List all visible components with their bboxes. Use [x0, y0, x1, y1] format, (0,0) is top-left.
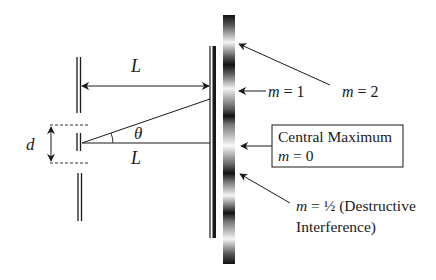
destructive-annotation: m = ½ (Destructive Interference) [240, 174, 416, 236]
double-slit-diagram: d L θ L m = 2 m = 1 Central Maximum m = … [0, 0, 436, 280]
central-maximum-title: Central Maximum [278, 128, 392, 145]
barrier-top [77, 57, 81, 113]
barrier-center [77, 133, 81, 151]
destructive-label-line1: m = ½ (Destructive [296, 197, 416, 215]
rays: θ L [82, 99, 210, 168]
m2-annotation: m = 2 [239, 44, 379, 100]
angle-arc [111, 133, 113, 143]
diagonal-ray [82, 99, 210, 143]
slit-barrier [77, 57, 82, 221]
central-maximum-order: m = 0 [278, 147, 314, 164]
L-top-label: L [130, 56, 141, 76]
central-maximum-annotation: Central Maximum m = 0 [241, 125, 403, 167]
barrier-bottom [78, 173, 82, 221]
distance-L-top: L [82, 56, 209, 86]
destructive-label-line2: Interference) [296, 218, 376, 236]
screen [210, 46, 216, 238]
d-label: d [26, 135, 35, 154]
m2-label: m = 2 [342, 83, 379, 100]
interference-fringe-pattern [223, 15, 235, 264]
theta-label: θ [134, 124, 142, 143]
m1-annotation: m = 1 [239, 83, 305, 100]
L-bottom-label: L [130, 148, 141, 168]
m1-label: m = 1 [268, 83, 305, 100]
